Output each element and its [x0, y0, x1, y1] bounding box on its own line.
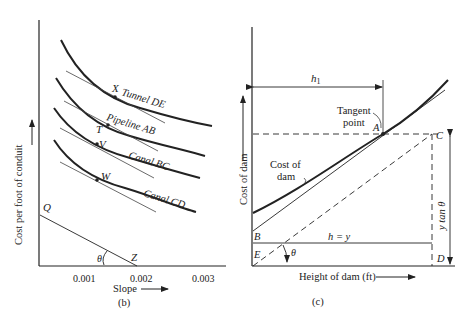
figure-canvas: X Tunnel DE T Pipeline AB V Canal BC W C… — [0, 0, 465, 318]
label-q: Q — [43, 201, 51, 213]
label-h1: h1 — [311, 72, 321, 86]
ylabel-cost-per-foot: Cost per foot of conduit — [13, 145, 24, 245]
xlabel-height-of-dam: Height of dam (ft) — [299, 271, 376, 283]
curve-tunnel-de — [61, 40, 212, 126]
panel-b: X Tunnel DE T Pipeline AB V Canal BC W C… — [13, 20, 226, 309]
label-t: T — [96, 123, 103, 135]
panel-c: h1 Tangent point A C Cost of dam B h = y… — [238, 27, 455, 308]
xtick-0001: 0.001 — [73, 273, 96, 284]
label-v: V — [99, 138, 107, 150]
xlabel-slope: Slope — [113, 283, 137, 294]
label-theta-c: θ — [291, 247, 296, 258]
label-cost-of: Cost of — [270, 159, 301, 170]
theta-arc-c — [283, 245, 287, 262]
label-x: X — [111, 82, 120, 94]
label-canal-bc: Canal BC — [127, 149, 171, 172]
dashed-ec — [253, 134, 432, 266]
label-canal-cd: Canal CD — [142, 187, 187, 210]
label-c: C — [436, 130, 444, 141]
label-y-tan-theta: y tan θ — [436, 202, 447, 232]
point-x — [113, 95, 117, 99]
label-theta-b: θ — [97, 253, 102, 264]
label-e: E — [253, 249, 261, 260]
theta-arc-b — [103, 251, 107, 265]
cost-of-dam-curve — [253, 80, 448, 213]
label-z: Z — [131, 251, 138, 263]
label-point: point — [343, 117, 365, 128]
ylabel-cost-of-dam: Cost of dam — [238, 154, 249, 205]
label-b: B — [254, 231, 261, 242]
label-tangent: Tangent — [337, 105, 371, 116]
point-w — [95, 178, 99, 182]
label-tunnel-de: Tunnel DE — [120, 86, 167, 110]
caption-c: (c) — [312, 296, 324, 308]
label-h-eq-y: h = y — [328, 231, 351, 242]
cost-pointer — [304, 178, 306, 183]
label-d: D — [436, 253, 445, 264]
label-w: W — [101, 170, 111, 182]
label-dam: dam — [277, 171, 295, 182]
caption-b: (b) — [118, 297, 131, 309]
point-t — [106, 123, 110, 127]
line-qz — [40, 215, 137, 266]
label-a: A — [372, 122, 380, 133]
xtick-0003: 0.003 — [192, 273, 215, 284]
